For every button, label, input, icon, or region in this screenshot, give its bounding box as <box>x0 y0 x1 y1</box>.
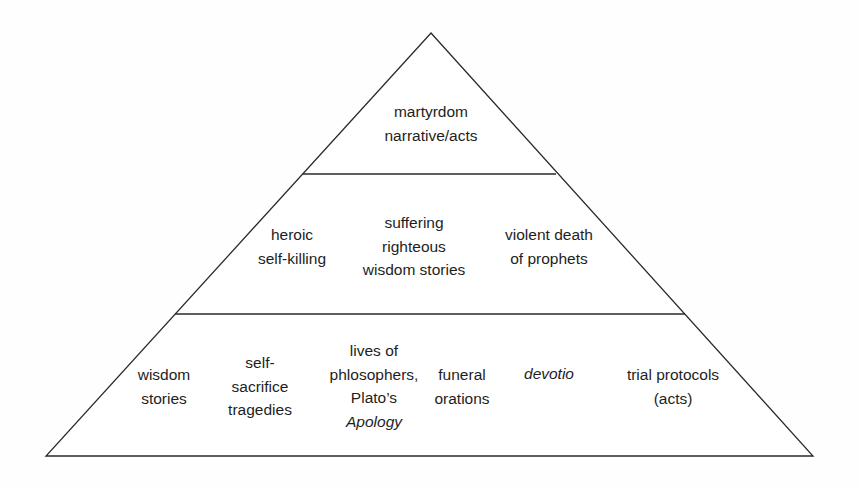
label-line: funeral <box>434 363 489 387</box>
label-line: lives of <box>330 339 419 363</box>
label-line: orations <box>434 386 489 410</box>
label-line: righteous <box>363 234 466 258</box>
label-line: stories <box>138 386 191 410</box>
tier-middle-label-heroic-self-killing: heroicself-killing <box>258 223 326 270</box>
label-line: narrative/acts <box>384 123 477 147</box>
tier-bottom-label-wisdom-stories: wisdomstories <box>138 363 191 410</box>
label-line: heroic <box>258 223 326 247</box>
label-line: devotio <box>524 362 574 386</box>
tier-bottom-label-lives-of-philosophers: lives ofphlosophers,Plato’sApology <box>330 339 419 433</box>
tier-bottom-label-devotio: devotio <box>524 362 574 386</box>
label-line: (acts) <box>627 386 719 410</box>
tier-bottom-label-trial-protocols: trial protocols(acts) <box>627 363 719 410</box>
tier-bottom-label-self-sacrifice-tragedies: self-sacrificetragedies <box>228 351 292 422</box>
label-line: sacrifice <box>228 374 292 398</box>
tier-middle-label-violent-death-prophets: violent deathof prophets <box>505 223 593 270</box>
tier-middle-label-suffering-righteous: sufferingrighteouswisdom stories <box>363 211 466 282</box>
tier-bottom-label-funeral-orations: funeralorations <box>434 363 489 410</box>
label-line: phlosophers, <box>330 363 419 387</box>
label-line: Plato’s <box>330 386 419 410</box>
label-line: self-killing <box>258 246 326 270</box>
label-line: of prophets <box>505 246 593 270</box>
label-line: self- <box>228 351 292 375</box>
label-line: violent death <box>505 223 593 247</box>
tier-top-label-martyrdom-narrative: martyrdomnarrative/acts <box>384 100 477 147</box>
label-line: martyrdom <box>384 100 477 124</box>
label-line: Apology <box>330 410 419 434</box>
label-line: trial protocols <box>627 363 719 387</box>
label-line: wisdom stories <box>363 258 466 282</box>
label-line: wisdom <box>138 363 191 387</box>
pyramid-diagram: martyrdomnarrative/actsheroicself-killin… <box>0 0 860 488</box>
label-line: tragedies <box>228 398 292 422</box>
label-line: suffering <box>363 211 466 235</box>
